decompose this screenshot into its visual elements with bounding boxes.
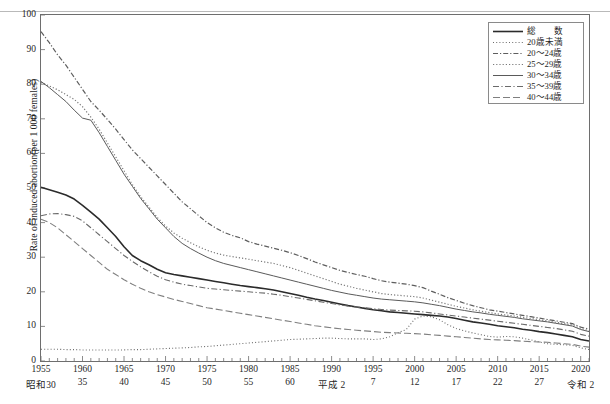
- series-line-age25_29: [41, 82, 589, 330]
- legend-item-age40_44: 40～44歳: [493, 92, 579, 103]
- legend-item-age25_29: 25～29歳: [493, 59, 579, 70]
- series-line-under20: [41, 316, 589, 350]
- legend-item-label: 20歳未満: [527, 37, 563, 48]
- legend-item-label: 総 数: [527, 26, 563, 37]
- legend-line-swatch: [493, 27, 523, 36]
- legend-line-swatch: [493, 38, 523, 47]
- legend-line-swatch: [493, 49, 523, 58]
- x-tick-label-era: 令和 2: [551, 377, 610, 391]
- legend-item-label: 30～34歳: [527, 70, 562, 81]
- legend-item-under20: 20歳未満: [493, 37, 579, 48]
- legend-line-swatch: [493, 71, 523, 80]
- series-line-age35_39: [41, 214, 589, 336]
- legend-item-age35_39: 35～39歳: [493, 81, 579, 92]
- series-line-age30_34: [41, 81, 589, 331]
- legend-item-label: 25～29歳: [527, 59, 562, 70]
- legend-item-age20_24: 20～24歳: [493, 48, 579, 59]
- legend-item-age30_34: 30～34歳: [493, 70, 579, 81]
- chart-canvas: 0102030405060708090100 Rate of induced a…: [0, 0, 610, 404]
- legend-item-label: 20～24歳: [527, 48, 562, 59]
- chart-legend: 総 数20歳未満20～24歳25～29歳30～34歳35～39歳40～44歳: [488, 22, 584, 104]
- series-line-total: [41, 187, 589, 341]
- series-line-age40_44: [41, 219, 589, 347]
- legend-item-label: 40～44歳: [527, 92, 562, 103]
- legend-line-swatch: [493, 93, 523, 102]
- legend-item-label: 35～39歳: [527, 81, 562, 92]
- legend-line-swatch: [493, 60, 523, 69]
- legend-line-swatch: [493, 82, 523, 91]
- legend-item-total: 総 数: [493, 26, 579, 37]
- x-tick-label-western: 2020: [551, 364, 610, 374]
